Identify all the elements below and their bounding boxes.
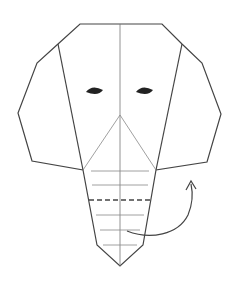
background [0,0,233,282]
origami-elephant-diagram: Origami elephant face - fold trunk step [0,0,233,282]
